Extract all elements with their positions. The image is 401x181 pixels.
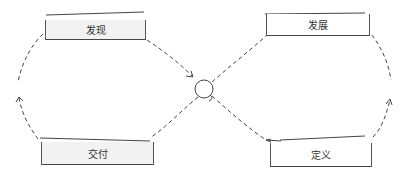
connector-deliver-left-arc: [19, 98, 38, 139]
connector-discover-to-center: [147, 40, 192, 76]
arrowhead-center-icon: [186, 71, 193, 77]
process-diagram: 发现 发展 定义 交付: [0, 0, 401, 181]
node-discover-label: 发现: [86, 22, 106, 37]
connector-center-to-define: [212, 96, 266, 140]
node-develop-label: 发展: [308, 17, 328, 32]
node-define: 定义: [270, 143, 372, 167]
connector-develop-right-arc: [372, 35, 391, 80]
node-develop: 发展: [266, 14, 370, 36]
node-deliver-label: 交付: [88, 146, 108, 161]
node-define-label: 定义: [311, 147, 331, 162]
connector-define-right-arc: [373, 100, 390, 137]
node-discover: 发现: [45, 20, 146, 40]
node-deliver: 交付: [41, 142, 154, 165]
connector-discover-left-arc: [18, 34, 43, 82]
connector-center-to-deliver: [150, 97, 198, 138]
connector-center-to-develop: [212, 36, 266, 82]
